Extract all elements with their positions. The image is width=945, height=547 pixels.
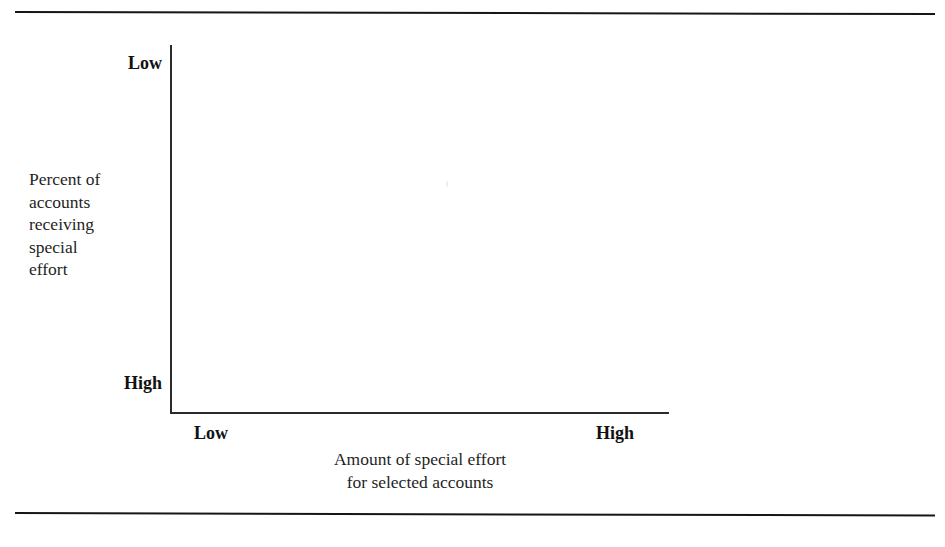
x-axis-caption-line-2: for selected accounts bbox=[250, 471, 590, 494]
plot-area bbox=[172, 45, 669, 412]
scan-speck bbox=[446, 181, 448, 187]
y-axis-top-label: Low bbox=[32, 53, 162, 73]
top-horizontal-rule bbox=[15, 11, 935, 15]
y-axis-caption-line-4: special bbox=[29, 236, 161, 259]
bottom-horizontal-rule bbox=[15, 512, 935, 517]
y-axis-bottom-label: High bbox=[32, 373, 162, 393]
y-axis-caption: Percent of accounts receiving special ef… bbox=[29, 168, 161, 281]
y-axis-caption-line-1: Percent of bbox=[29, 168, 161, 191]
y-axis-caption-line-2: accounts bbox=[29, 191, 161, 214]
x-axis-left-label: Low bbox=[194, 423, 228, 443]
x-axis-caption-line-1: Amount of special effort bbox=[250, 448, 590, 471]
y-axis-caption-line-5: effort bbox=[29, 258, 161, 281]
x-axis-caption: Amount of special effort for selected ac… bbox=[250, 448, 590, 494]
x-axis-line bbox=[170, 412, 669, 414]
y-axis-caption-line-3: receiving bbox=[29, 213, 161, 236]
figure-canvas: Low High Percent of accounts receiving s… bbox=[0, 0, 945, 547]
x-axis-right-label: High bbox=[596, 423, 634, 443]
